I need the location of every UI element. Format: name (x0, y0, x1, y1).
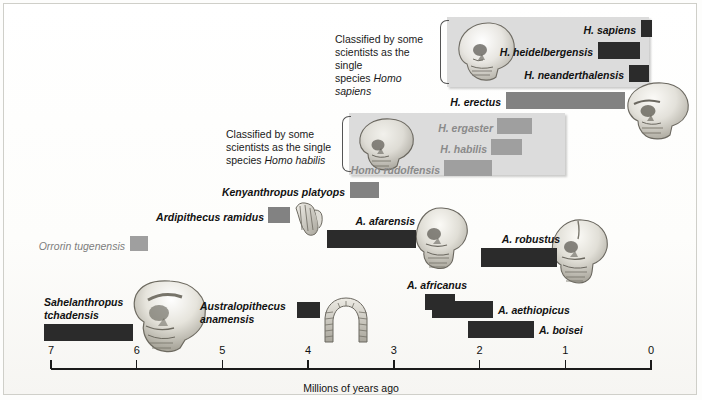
label-sahelanthropus-tchadensis: Sahelanthropus tchadensis (44, 296, 140, 321)
label-h-ergaster: H. ergaster (413, 122, 493, 134)
label-h-erectus: H. erectus (413, 96, 501, 108)
bar-a-afarensis (327, 230, 416, 248)
axis-tick-6 (136, 360, 138, 369)
axis-tick-5 (222, 360, 224, 369)
note-habilis-line2: scientists as the single (226, 141, 331, 153)
axis-tick-3 (393, 360, 395, 369)
axis-tick-0 (650, 360, 652, 369)
label-orrorin-tugenensis: Orrorin tugenensis (20, 240, 125, 252)
label-homo-rudolfensis: Homo rudolfensis (330, 164, 440, 176)
label-h-sapiens: H. sapiens (531, 24, 636, 36)
bar-a-aethiopicus (432, 301, 493, 318)
bar-ardipithecus-ramidus (268, 207, 290, 223)
axis-tick-label-1: 1 (562, 344, 568, 356)
bar-h-habilis (491, 139, 522, 155)
label-australopithecus-anamensis: Australopithecus anamensis (200, 300, 295, 325)
axis-tick-1 (565, 360, 567, 369)
bar-orrorin-tugenensis (130, 236, 148, 251)
axis-tick-label-3: 3 (391, 344, 397, 356)
note-homo-sapiens: Classified by some scientists as the sin… (335, 33, 440, 98)
axis-tick-label-5: 5 (219, 344, 225, 356)
bar-h-heidelbergensis (598, 42, 640, 59)
note-homo-habilis: Classified by some scientists as the sin… (226, 128, 338, 167)
axis-tick-label-4: 4 (305, 344, 311, 356)
axis-tick-label-2: 2 (477, 344, 483, 356)
bar-sahelanthropus-tchadensis (44, 324, 133, 341)
skull-icon-a-afarensis (412, 206, 474, 272)
bar-h-ergaster (497, 118, 532, 134)
axis-title: Millions of years ago (0, 382, 702, 394)
label-a-aethiopicus: A. aethiopicus (498, 304, 570, 316)
brace-homo-sapiens (440, 20, 449, 84)
bar-a-robustus (481, 248, 557, 267)
label-a-robustus: A. robustus (470, 233, 560, 245)
bar-australopithecus-anamensis (297, 302, 320, 318)
bar-kenyanthropus-platyops (350, 182, 379, 198)
label-h-heidelbergensis: H. heidelbergensis (473, 46, 593, 58)
note-habilis-line3-pre: species (226, 154, 265, 166)
label-a-afarensis: A. afarensis (315, 215, 415, 227)
label-a-africanus: A. africanus (375, 279, 467, 291)
label-sahelanthropus-line2: tchadensis (44, 309, 99, 321)
bar-h-erectus (506, 92, 625, 109)
label-anamensis-line1: Australopithecus (200, 300, 286, 312)
hominid-timeline-figure: Classified by some scientists as the sin… (0, 0, 702, 400)
skull-icon-a-robustus (548, 218, 614, 286)
bar-a-boisei (468, 321, 534, 338)
note-sapiens-line3-pre: species (335, 72, 374, 84)
axis-tick-label-7: 7 (48, 344, 54, 356)
axis-tick-7 (50, 360, 52, 369)
label-ardipithecus-ramidus: Ardipithecus ramidus (148, 211, 264, 223)
bar-homo-rudolfensis (444, 160, 492, 176)
skull-icon-h-erectus (622, 80, 694, 142)
note-sapiens-line1: Classified by some (335, 33, 423, 45)
note-habilis-line1: Classified by some (226, 128, 314, 140)
time-axis: 76543210 Millions of years ago (0, 356, 702, 400)
bar-h-sapiens (641, 20, 652, 37)
axis-line (51, 368, 652, 370)
fossil-icon-anamensis-jaw (322, 294, 370, 346)
axis-tick-4 (307, 360, 309, 369)
label-sahelanthropus-line1: Sahelanthropus (44, 296, 123, 308)
axis-tick-label-0: 0 (648, 344, 654, 356)
note-sapiens-line2: scientists as the single (335, 46, 410, 71)
axis-tick-2 (479, 360, 481, 369)
label-h-habilis: H. habilis (413, 143, 487, 155)
axis-tick-label-6: 6 (134, 344, 140, 356)
label-anamensis-line2: anamensis (200, 313, 254, 325)
label-a-boisei: A. boisei (539, 324, 583, 336)
label-kenyanthropus-platyops: Kenyanthropus platyops (213, 186, 345, 198)
note-habilis-line3-emphasis: Homo habilis (265, 154, 326, 166)
label-h-neanderthalensis: H. neanderthalensis (496, 69, 624, 81)
